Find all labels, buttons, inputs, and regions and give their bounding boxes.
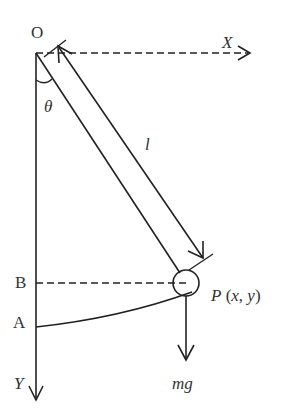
point-a-label: A [13,313,26,332]
origin-label: O [31,23,43,42]
length-label: l [145,135,150,154]
pendulum-bob [173,270,199,296]
length-dimension [44,40,213,270]
x-axis-label: X [221,33,233,52]
angle-arc [36,79,52,83]
force-label: mg [172,374,193,393]
swing-path [36,292,192,327]
y-axis-label: Y [14,374,25,393]
pendulum-string [36,53,180,273]
point-b-label: B [15,273,26,292]
angle-label: θ [44,97,52,116]
pendulum-diagram: X Y O θ l B A P (x, y) mg [0,0,284,418]
gravity-force [178,296,194,360]
y-axis [29,53,43,400]
bob-label: P (x, y) [210,286,261,305]
x-axis [36,46,250,60]
